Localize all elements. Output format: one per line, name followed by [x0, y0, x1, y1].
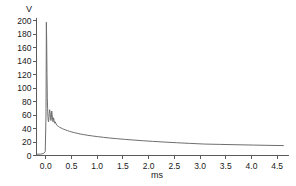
y-tick-label: 20	[22, 137, 32, 147]
x-tick-label: 3.5	[220, 161, 232, 171]
x-tick-label: 1.0	[91, 161, 103, 171]
x-tick-label: 0.0	[40, 161, 52, 171]
y-axis-tick-marks	[33, 21, 37, 156]
y-axis-tick-labels: 020406080100120140160180200	[17, 16, 31, 161]
plot-area: 020406080100120140160180200 0.00.51.01.5…	[0, 0, 296, 186]
y-tick-label: 100	[17, 83, 31, 93]
y-tick-label: 180	[17, 29, 31, 39]
x-tick-label: 2.5	[168, 161, 180, 171]
y-tick-label: 0	[27, 151, 32, 161]
x-tick-label: 2.0	[143, 161, 155, 171]
voltage-decay-chart: V 020406080100120140160180200 0.00.51.01…	[0, 0, 296, 186]
x-tick-label: 3.0	[194, 161, 206, 171]
x-tick-label: 4.5	[271, 161, 283, 171]
x-axis-title: ms	[0, 170, 296, 180]
x-axis-tick-labels: 0.00.51.01.52.02.53.03.54.04.5	[40, 161, 284, 171]
x-tick-label: 0.5	[66, 161, 78, 171]
y-tick-label: 200	[17, 16, 31, 26]
y-tick-label: 60	[22, 110, 32, 120]
y-tick-label: 160	[17, 43, 31, 53]
x-axis-tick-marks	[46, 156, 277, 160]
x-tick-label: 4.0	[246, 161, 258, 171]
x-tick-label: 1.5	[117, 161, 129, 171]
y-tick-label: 120	[17, 70, 31, 80]
y-tick-label: 140	[17, 56, 31, 66]
voltage-trace-line	[37, 22, 283, 154]
y-tick-label: 80	[22, 97, 32, 107]
y-tick-label: 40	[22, 124, 32, 134]
